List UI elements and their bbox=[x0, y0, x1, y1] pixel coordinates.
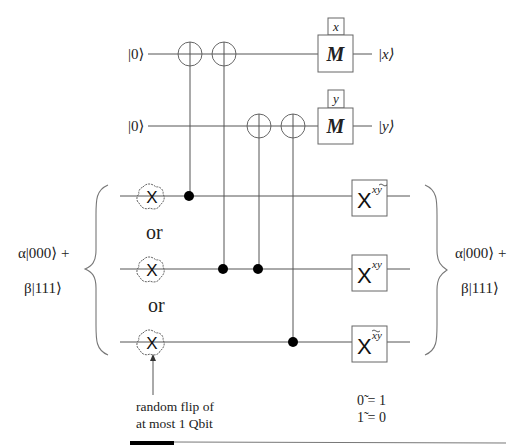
measure-result-label: y bbox=[331, 91, 339, 106]
ancilla-input-y: |0⟩ bbox=[128, 118, 144, 134]
annotation-line2: at most 1 Qbit bbox=[136, 416, 213, 431]
control-dot-icon bbox=[218, 264, 228, 274]
cnot-target-icon bbox=[212, 42, 236, 66]
negation-rule-1: 1̃ = 0 bbox=[357, 410, 386, 425]
output-state-line2: β|111⟩ bbox=[461, 280, 499, 296]
left-brace-icon bbox=[85, 185, 108, 355]
measure-gate-x: x M bbox=[318, 18, 353, 72]
measure-result-label: x bbox=[332, 19, 339, 34]
correction-gate-base: X bbox=[357, 188, 372, 213]
measure-gate-label: M bbox=[326, 43, 346, 65]
correction-gate-base: X bbox=[357, 334, 372, 359]
bottom-rule bbox=[174, 442, 506, 443]
control-dot-icon bbox=[288, 337, 298, 347]
correction-gate-1: X xy bbox=[352, 180, 387, 216]
cnot-target-icon bbox=[247, 114, 271, 138]
control-dot-icon bbox=[184, 191, 194, 201]
ancilla-input-x: |0⟩ bbox=[128, 46, 144, 62]
right-brace-icon bbox=[425, 185, 447, 355]
negation-rule-0: 0̃ = 1 bbox=[357, 393, 386, 408]
or-label: or bbox=[146, 221, 163, 243]
annotation-line1: random flip of bbox=[136, 399, 214, 414]
bottom-rule-thick bbox=[130, 441, 174, 445]
cnot-target-icon bbox=[178, 42, 202, 66]
correction-gate-3: X xy bbox=[352, 326, 387, 362]
circuit-diagram: |0⟩ |0⟩ x M y M |x⟩ |y⟩ α|000⟩ + β|111⟩ … bbox=[0, 0, 528, 445]
correction-gate-2: X xy bbox=[352, 255, 387, 291]
or-label: or bbox=[148, 294, 165, 316]
correction-gate-exponent: xy bbox=[371, 258, 382, 270]
output-state-line1: α|000⟩ + bbox=[455, 245, 506, 261]
control-dot-icon bbox=[253, 264, 263, 274]
correction-gate-exponent: xy bbox=[371, 183, 382, 195]
cnot-target-icon bbox=[281, 114, 305, 138]
measure-gate-label: M bbox=[326, 115, 346, 137]
error-x-label: X bbox=[146, 334, 157, 353]
error-x-label: X bbox=[146, 261, 157, 280]
input-state-line2: β|111⟩ bbox=[24, 280, 62, 296]
correction-gate-base: X bbox=[357, 263, 372, 288]
ancilla-output-y: |y⟩ bbox=[378, 118, 395, 134]
measure-gate-y: y M bbox=[318, 90, 353, 144]
input-state-line1: α|000⟩ + bbox=[18, 245, 69, 261]
ancilla-output-x: |x⟩ bbox=[378, 46, 395, 62]
error-x-label: X bbox=[146, 188, 157, 207]
